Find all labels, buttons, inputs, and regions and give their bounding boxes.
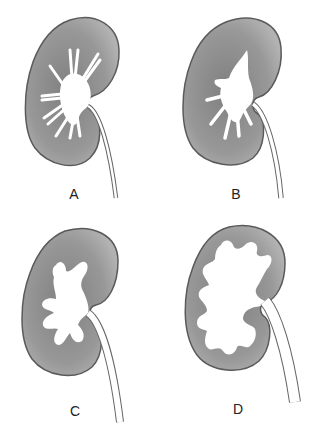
panel-d: D bbox=[161, 217, 322, 434]
label-d: D bbox=[228, 401, 248, 417]
label-b: B bbox=[226, 186, 246, 202]
kidney-a-illustration bbox=[0, 0, 161, 217]
kidney-c-illustration bbox=[0, 217, 161, 434]
panel-b: B bbox=[161, 0, 322, 217]
label-a: A bbox=[64, 186, 84, 202]
panel-a: A bbox=[0, 0, 161, 217]
kidney-b-illustration bbox=[161, 0, 322, 217]
label-c: C bbox=[65, 403, 85, 419]
panel-c: C bbox=[0, 217, 161, 434]
